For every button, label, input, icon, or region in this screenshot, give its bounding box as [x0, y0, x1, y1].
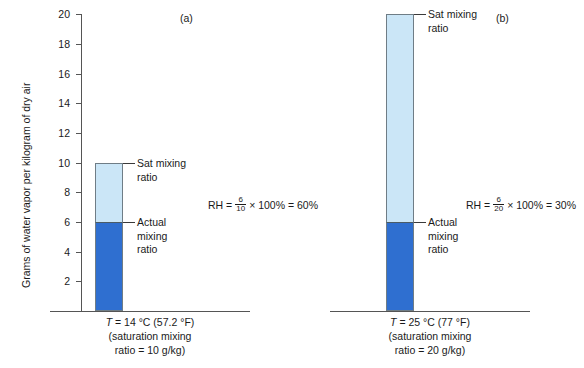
- formula-a-denominator: 10: [235, 204, 246, 213]
- callout-b-saturation: Sat mixing ratio: [428, 8, 523, 35]
- callout-b-actual: Actual mixing ratio: [428, 216, 523, 257]
- y-axis-label: Grams of water vapor per kilogram of dry…: [6, 30, 24, 290]
- callout-a-actual-line3: ratio: [137, 243, 232, 257]
- caption-a-temp-value: = 14 °C (57.2 °F): [112, 316, 194, 328]
- y-tick-20: [76, 14, 81, 15]
- bar-a-actual-segment: [95, 222, 123, 311]
- formula-a-lhs: RH =: [208, 199, 232, 211]
- leader-a-saturation: [123, 163, 135, 164]
- caption-a-line1: T = 14 °C (57.2 °F): [50, 315, 250, 329]
- y-tick-label-20: 20: [44, 8, 70, 20]
- bar-b-saturation-segment: [386, 14, 414, 223]
- y-tick-12: [76, 133, 81, 134]
- formula-a-rhs: × 100% = 60%: [249, 199, 318, 211]
- caption-b-line1: T = 25 °C (77 °F): [330, 315, 530, 329]
- y-tick-8: [76, 192, 81, 193]
- bar-a-saturation-segment: [95, 163, 123, 223]
- formula-panel-b: RH = 6 20 × 100% = 30%: [466, 196, 576, 213]
- callout-a-actual-line1: Actual: [137, 216, 232, 230]
- x-axis-line-panel-b: [330, 311, 530, 312]
- leader-a-actual: [123, 222, 135, 223]
- callout-a-actual: Actual mixing ratio: [137, 216, 232, 257]
- y-axis-line: [81, 14, 82, 311]
- leader-b-saturation: [414, 14, 426, 15]
- callout-a-saturation: Sat mixing ratio: [137, 157, 232, 184]
- y-tick-label-18: 18: [44, 38, 70, 50]
- callout-b-saturation-line2: ratio: [428, 22, 523, 36]
- callout-b-saturation-line1: Sat mixing: [428, 8, 523, 22]
- callout-b-actual-line2: mixing: [428, 230, 523, 244]
- callout-b-actual-line1: Actual: [428, 216, 523, 230]
- callout-b-actual-line3: ratio: [428, 243, 523, 257]
- y-tick-14: [76, 103, 81, 104]
- y-tick-label-12: 12: [44, 127, 70, 139]
- caption-b-temp-value: = 25 °C (77 °F): [396, 316, 469, 328]
- panel-letter-a: (a): [180, 12, 193, 24]
- formula-b-fraction: 6 20: [493, 196, 504, 213]
- y-tick-18: [76, 44, 81, 45]
- callout-a-saturation-line1: Sat mixing: [137, 157, 232, 171]
- callout-a-actual-line2: mixing: [137, 230, 232, 244]
- y-tick-10: [76, 163, 81, 164]
- y-tick-label-8: 8: [44, 186, 70, 198]
- caption-a-line2: (saturation mixing: [50, 329, 250, 343]
- y-tick-2: [76, 281, 81, 282]
- humidity-figure: Grams of water vapor per kilogram of dry…: [0, 0, 584, 368]
- y-tick-label-6: 6: [44, 216, 70, 228]
- x-axis-line-panel-a: [50, 311, 250, 312]
- leader-b-actual: [414, 222, 426, 223]
- caption-panel-a: T = 14 °C (57.2 °F) (saturation mixing r…: [50, 315, 250, 357]
- caption-a-line3: ratio = 10 g/kg): [50, 343, 250, 357]
- bar-b-actual-segment: [386, 222, 414, 311]
- callout-a-saturation-line2: ratio: [137, 171, 232, 185]
- caption-b-line3: ratio = 20 g/kg): [330, 343, 530, 357]
- formula-panel-a: RH = 6 10 × 100% = 60%: [208, 196, 318, 213]
- formula-a-numerator: 6: [237, 196, 243, 204]
- caption-b-line2: (saturation mixing: [330, 329, 530, 343]
- y-tick-label-4: 4: [44, 246, 70, 258]
- y-tick-6: [76, 222, 81, 223]
- formula-b-denominator: 20: [493, 204, 504, 213]
- y-tick-label-10: 10: [44, 157, 70, 169]
- formula-b-rhs: × 100% = 30%: [507, 199, 576, 211]
- formula-b-numerator: 6: [495, 196, 501, 204]
- y-tick-4: [76, 252, 81, 253]
- formula-a-fraction: 6 10: [235, 196, 246, 213]
- y-tick-label-14: 14: [44, 97, 70, 109]
- caption-panel-b: T = 25 °C (77 °F) (saturation mixing rat…: [330, 315, 530, 357]
- y-tick-label-16: 16: [44, 68, 70, 80]
- y-axis-label-text: Grams of water vapor per kilogram of dry…: [20, 83, 32, 288]
- formula-b-lhs: RH =: [466, 199, 490, 211]
- y-tick-16: [76, 74, 81, 75]
- y-tick-label-2: 2: [44, 275, 70, 287]
